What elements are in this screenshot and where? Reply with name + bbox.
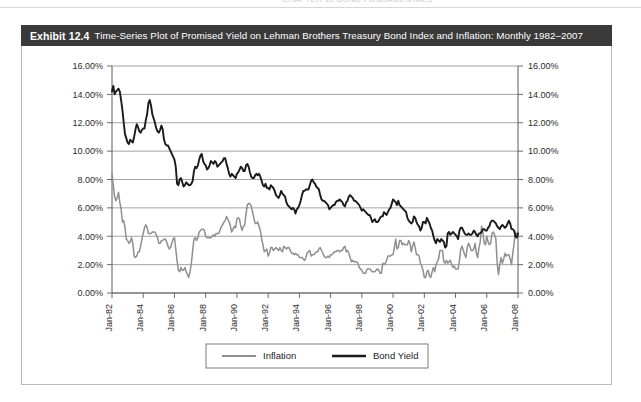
y-axis-left-tick-label: 4.00% [77, 232, 103, 242]
y-axis-right-tick-label: 14.00% [528, 90, 559, 100]
time-series-chart: 16.00%14.00%12.00%10.00%8.00%6.00%4.00%2… [21, 46, 612, 385]
gridlines-group [112, 66, 518, 293]
exhibit-title-bar: Exhibit 12.4 Time-Series Plot of Promise… [21, 25, 612, 46]
x-axis-tick-label: Jan-98 [354, 304, 364, 332]
x-axis-tick-label: Jan-84 [135, 304, 145, 332]
y-axis-left-tick-label: 14.00% [72, 90, 103, 100]
y-axis-left-tick-label: 0.00% [77, 288, 103, 298]
x-axis-tick-label: Jan-82 [104, 304, 114, 332]
x-axis-tick-label: Jan-08 [510, 304, 520, 332]
running-head: CHAPTER 12 BOND FUNDAMENTALS [0, 0, 641, 7]
y-axis-left-tick-label: 6.00% [77, 203, 103, 213]
y-axis-left-tick-label: 2.00% [77, 260, 103, 270]
x-axis-labels: Jan-82Jan-84Jan-86Jan-88Jan-90Jan-92Jan-… [104, 304, 520, 332]
series-line-inflation [112, 174, 518, 278]
x-axis-ticks-group [112, 293, 518, 298]
y-axis-right-tick-label: 2.00% [528, 260, 554, 270]
series-line-bond-yield [112, 86, 518, 248]
legend-label-inflation: Inflation [263, 350, 296, 361]
top-rule [0, 7, 641, 8]
y-axis-right-labels: 16.00%14.00%12.00%10.00%8.00%6.00%4.00%2… [518, 61, 559, 298]
legend-label-bond-yield: Bond Yield [373, 350, 418, 361]
x-axis-tick-label: Jan-94 [291, 304, 301, 332]
exhibit-number: Exhibit 12.4 [30, 30, 90, 42]
x-axis-tick-label: Jan-02 [416, 304, 426, 332]
y-axis-right-tick-label: 6.00% [528, 203, 554, 213]
x-axis-tick-label: Jan-92 [260, 304, 270, 332]
x-axis-tick-label: Jan-00 [385, 304, 395, 332]
x-axis-tick-label: Jan-04 [448, 304, 458, 332]
chart-area: 16.00%14.00%12.00%10.00%8.00%6.00%4.00%2… [21, 46, 612, 385]
x-axis-tick-label: Jan-86 [166, 304, 176, 332]
running-head-text: CHAPTER 12 BOND FUNDAMENTALS [282, 0, 432, 4]
y-axis-right-tick-label: 10.00% [528, 146, 559, 156]
chart-legend: InflationBond Yield [206, 344, 428, 368]
y-axis-right-tick-label: 16.00% [528, 61, 559, 71]
y-axis-left-tick-label: 10.00% [72, 146, 103, 156]
y-axis-left-tick-label: 16.00% [72, 61, 103, 71]
x-axis-tick-label: Jan-90 [229, 304, 239, 332]
exhibit-title: Time-Series Plot of Promised Yield on Le… [95, 30, 584, 41]
y-axis-left-tick-label: 12.00% [72, 118, 103, 128]
x-axis-tick-label: Jan-88 [198, 304, 208, 332]
y-axis-left-tick-label: 8.00% [77, 175, 103, 185]
y-axis-right-tick-label: 8.00% [528, 175, 554, 185]
x-axis-tick-label: Jan-96 [323, 304, 333, 332]
x-axis-tick-label: Jan-06 [479, 304, 489, 332]
y-axis-right-tick-label: 4.00% [528, 232, 554, 242]
data-series-group [112, 86, 518, 278]
y-axis-right-tick-label: 12.00% [528, 118, 559, 128]
y-axis-left-labels: 16.00%14.00%12.00%10.00%8.00%6.00%4.00%2… [72, 61, 112, 298]
exhibit-page: CHAPTER 12 BOND FUNDAMENTALS Exhibit 12.… [0, 0, 641, 402]
y-axis-right-tick-label: 0.00% [528, 288, 554, 298]
